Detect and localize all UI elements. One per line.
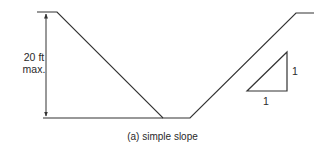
slope-ratio-triangle [247, 52, 287, 91]
depth-value: 20 ft [20, 51, 48, 63]
trench-diagram [0, 0, 325, 152]
figure-caption: (a) simple slope [0, 131, 325, 143]
slope-rise-label: 1 [292, 65, 298, 77]
depth-dimension-label: 20 ft max. [20, 51, 48, 75]
depth-qualifier: max. [20, 63, 48, 75]
trench-profile [37, 12, 314, 118]
slope-run-label: 1 [263, 95, 269, 107]
